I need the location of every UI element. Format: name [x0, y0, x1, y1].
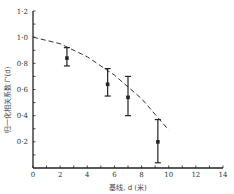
data-point [106, 82, 110, 86]
dashed-line [33, 37, 169, 130]
chart: 024681012140·20·40·60·81·01·2 基线, d (米) … [0, 0, 234, 194]
x-tick-label: 2 [58, 171, 62, 179]
axes: 024681012140·20·40·60·81·01·2 [17, 8, 228, 180]
data-points [64, 48, 161, 163]
x-tick-label: 0 [31, 171, 35, 179]
data-point [126, 96, 130, 100]
theoretical-curve [33, 37, 169, 130]
x-tick-label: 10 [164, 171, 173, 179]
x-tick-label: 12 [191, 171, 200, 179]
y-tick-label: 1·2 [17, 8, 28, 16]
x-tick-label: 6 [112, 171, 117, 179]
y-tick-label: 0·2 [17, 138, 28, 146]
x-tick-label: 8 [139, 171, 143, 179]
data-point [156, 140, 160, 144]
y-tick-label: 0·4 [17, 112, 29, 120]
y-tick-label: 0·8 [17, 60, 28, 68]
x-tick-label: 14 [219, 171, 228, 179]
data-point [65, 56, 69, 60]
y-axis-label: 归一化相关系数 Γ'(d) [3, 66, 12, 133]
y-tick-label: 0·6 [17, 86, 29, 94]
x-tick-label: 4 [85, 171, 90, 179]
x-axis-label: 基线, d (米) [109, 183, 147, 192]
y-tick-label: 1·0 [17, 34, 28, 42]
